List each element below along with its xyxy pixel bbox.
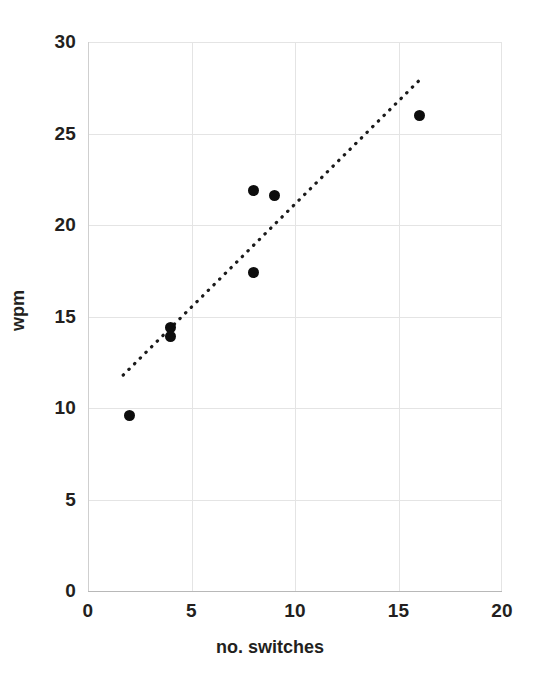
y-tick-label: 5	[18, 489, 76, 511]
x-axis-tick-labels: 05101520	[0, 600, 540, 630]
data-point	[248, 185, 259, 196]
data-point	[414, 110, 425, 121]
x-tick-label: 0	[58, 600, 118, 622]
gridline-vertical	[501, 42, 502, 591]
data-point	[269, 190, 280, 201]
x-tick-label: 5	[162, 600, 222, 622]
y-axis-title: wpm	[8, 271, 29, 351]
plot-area	[88, 42, 502, 591]
y-tick-label: 30	[18, 31, 76, 53]
y-tick-label: 25	[18, 123, 76, 145]
x-axis-title: no. switches	[0, 637, 540, 658]
data-point	[124, 410, 135, 421]
scatter-chart: 051015202530 05101520 no. switches wpm	[0, 0, 540, 682]
x-axis-line	[88, 591, 502, 592]
x-tick-label: 10	[265, 600, 325, 622]
y-tick-label: 10	[18, 397, 76, 419]
y-axis-line	[88, 42, 89, 591]
gridline-vertical	[192, 42, 193, 591]
gridline-vertical	[295, 42, 296, 591]
y-tick-label: 0	[18, 580, 76, 602]
gridline-vertical	[399, 42, 400, 591]
y-tick-label: 20	[18, 214, 76, 236]
x-tick-label: 15	[369, 600, 429, 622]
x-tick-label: 20	[472, 600, 532, 622]
